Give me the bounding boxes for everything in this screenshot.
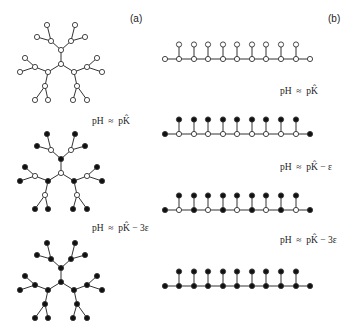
protonated-site-node: [249, 193, 254, 198]
protonated-site-node: [32, 315, 37, 320]
deprotonated-site-node: [220, 131, 225, 136]
panel-label-b: (b): [328, 13, 340, 24]
deprotonated-site-node: [84, 64, 89, 69]
deprotonated-site-node: [58, 170, 63, 175]
tree-2-ph-label: pH ≈ pK̂: [92, 116, 130, 126]
protonated-site-node: [293, 283, 298, 288]
protonated-site-node: [205, 283, 210, 288]
protonated-site-node: [34, 252, 39, 257]
deprotonated-site-node: [42, 83, 47, 88]
deprotonated-site-node: [48, 38, 53, 43]
protonated-site-node: [307, 283, 312, 288]
tree-3-ph-label: pH ≈ pK̂ − 3ε: [92, 223, 149, 233]
protonated-site-node: [71, 178, 76, 183]
deprotonated-site-node: [263, 207, 268, 212]
deprotonated-site-node: [234, 131, 239, 136]
protonated-site-node: [58, 279, 63, 284]
deprotonated-site-node: [176, 56, 181, 61]
deprotonated-site-node: [22, 55, 27, 60]
deprotonated-site-node: [42, 192, 47, 197]
deprotonated-site-node: [191, 42, 196, 47]
protonated-site-node: [220, 269, 225, 274]
protonated-site-node: [99, 287, 104, 292]
protonated-site-node: [249, 283, 254, 288]
deprotonated-site-node: [263, 131, 268, 136]
protonated-site-node: [84, 206, 89, 211]
protonated-site-node: [278, 193, 283, 198]
protonated-site-node: [176, 117, 181, 122]
deprotonated-site-node: [32, 97, 37, 102]
protonated-site-node: [263, 283, 268, 288]
deprotonated-site-node: [48, 147, 53, 152]
protonated-site-node: [84, 282, 89, 287]
deprotonated-site-node: [293, 207, 298, 212]
protonated-site-node: [99, 178, 104, 183]
deprotonated-site-node: [32, 64, 37, 69]
protonated-site-node: [162, 131, 167, 136]
deprotonated-site-node: [278, 131, 283, 136]
protonated-site-node: [44, 131, 49, 136]
protonated-site-node: [71, 287, 76, 292]
deprotonated-site-node: [34, 34, 39, 39]
protonated-site-node: [45, 178, 50, 183]
protonated-site-node: [234, 269, 239, 274]
deprotonated-site-node: [84, 173, 89, 178]
deprotonated-site-node: [249, 131, 254, 136]
protonated-site-node: [176, 283, 181, 288]
deprotonated-site-node: [162, 56, 167, 61]
deprotonated-site-node: [220, 42, 225, 47]
protonated-site-node: [68, 256, 73, 261]
panel-label-a: (a): [130, 13, 142, 24]
deprotonated-site-node: [249, 42, 254, 47]
protonated-site-node: [22, 273, 27, 278]
protonated-site-node: [48, 256, 53, 261]
deprotonated-site-node: [82, 34, 87, 39]
protonated-site-node: [234, 283, 239, 288]
protonated-site-node: [82, 252, 87, 257]
protonated-site-node: [205, 269, 210, 274]
protonated-site-node: [17, 287, 22, 292]
deprotonated-site-node: [99, 69, 104, 74]
deprotonated-site-node: [205, 207, 210, 212]
protonated-site-node: [234, 193, 239, 198]
protonated-site-node: [307, 207, 312, 212]
protonated-site-node: [293, 269, 298, 274]
deprotonated-site-node: [68, 38, 73, 43]
protonated-site-node: [45, 315, 50, 320]
protonated-site-node: [70, 206, 75, 211]
deprotonated-site-node: [191, 131, 196, 136]
deprotonated-site-node: [45, 97, 50, 102]
deprotonated-site-node: [72, 22, 77, 27]
protonated-site-node: [263, 193, 268, 198]
protonated-site-node: [44, 240, 49, 245]
protonated-site-node: [191, 117, 196, 122]
protonated-site-node: [220, 283, 225, 288]
protonated-site-node: [58, 156, 63, 161]
protonated-site-node: [45, 287, 50, 292]
protonated-site-node: [278, 117, 283, 122]
deprotonated-site-node: [234, 42, 239, 47]
deprotonated-site-node: [205, 131, 210, 136]
deprotonated-site-node: [68, 147, 73, 152]
deprotonated-site-node: [205, 56, 210, 61]
protonated-site-node: [84, 315, 89, 320]
deprotonated-site-node: [205, 42, 210, 47]
deprotonated-site-node: [220, 56, 225, 61]
protonated-site-node: [42, 301, 47, 306]
deprotonated-site-node: [32, 173, 37, 178]
deprotonated-site-node: [45, 69, 50, 74]
protonated-site-node: [70, 315, 75, 320]
protonated-site-node: [220, 207, 225, 212]
deprotonated-site-node: [278, 56, 283, 61]
deprotonated-site-node: [176, 42, 181, 47]
deprotonated-site-node: [176, 207, 181, 212]
protonated-site-node: [162, 283, 167, 288]
deprotonated-site-node: [58, 47, 63, 52]
protonated-site-node: [72, 240, 77, 245]
protonated-site-node: [220, 193, 225, 198]
deprotonated-site-node: [176, 131, 181, 136]
deprotonated-site-node: [293, 56, 298, 61]
chain-4-ph-label: pH ≈ pK̂ − 3ε: [280, 235, 337, 245]
deprotonated-site-node: [191, 56, 196, 61]
protonated-site-node: [176, 193, 181, 198]
